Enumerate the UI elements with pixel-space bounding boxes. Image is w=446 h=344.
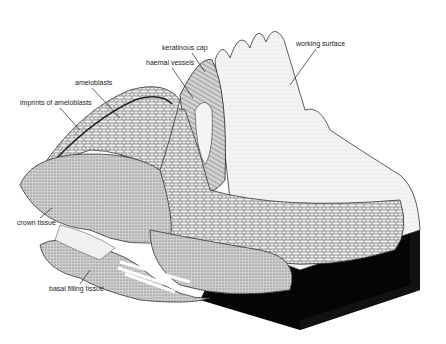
label-working-surface: working surface — [296, 40, 345, 48]
label-haemal-vessels: haemal vessels — [146, 59, 194, 67]
label-basal-filling-tissue: basal filling tissue — [49, 285, 104, 293]
tooth-diagram: keratinous cap haemal vessels ameloblast… — [0, 0, 446, 344]
label-crown-tissue: crown tissue — [17, 219, 56, 227]
label-keratinous-cap: keratinous cap — [162, 44, 208, 52]
label-imprints-of-ameloblasts: imprints of ameloblasts — [20, 99, 92, 107]
label-ameloblasts: ameloblasts — [75, 79, 112, 87]
